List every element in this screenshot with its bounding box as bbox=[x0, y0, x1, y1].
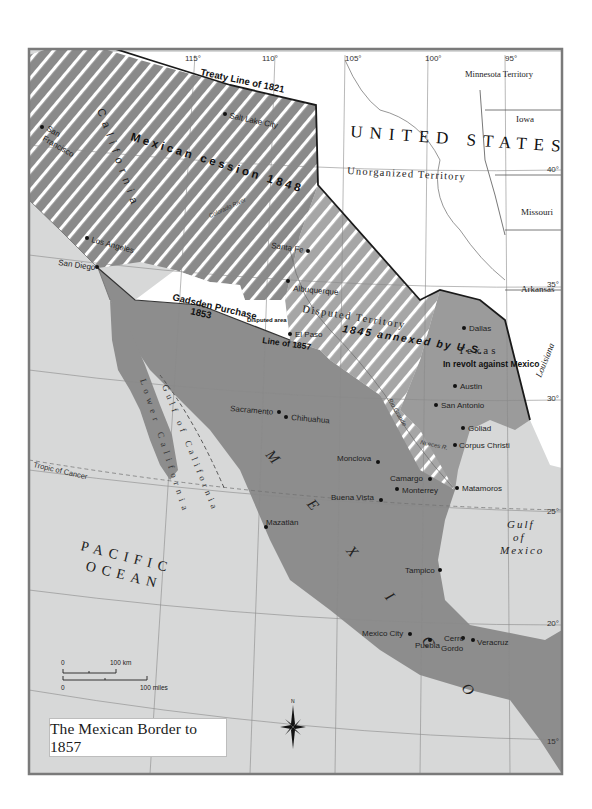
gulf-label: Gulf bbox=[507, 518, 535, 530]
of-label: of bbox=[513, 531, 526, 543]
texas-revolt-label: In revolt against Mexico bbox=[443, 359, 539, 369]
lon-95: 95° bbox=[505, 54, 517, 63]
scale-mi-label: 100 miles bbox=[140, 684, 169, 691]
lon-110: 110° bbox=[262, 54, 278, 63]
compass-north-label: N bbox=[291, 698, 295, 704]
city-mazatlan: Mazatlán bbox=[266, 518, 298, 527]
city-matamoros: Matamoros bbox=[462, 484, 502, 493]
mexico-gulf-label: Mexico bbox=[499, 544, 544, 556]
scale-mi-zero: 0 bbox=[61, 684, 65, 691]
missouri-label: Missouri bbox=[521, 207, 554, 217]
city-monclova: Monclova bbox=[337, 454, 372, 463]
lon-100: 100° bbox=[425, 54, 442, 63]
city-buena-vista: Buena Vista bbox=[331, 493, 375, 502]
city-camargo: Camargo bbox=[390, 474, 423, 483]
city-cerro-gordo-2: Gordo bbox=[441, 644, 464, 653]
lon-105: 105° bbox=[345, 54, 362, 63]
map-canvas: 115° 110° 105° 100° 95° 40° 35° 30° 25° … bbox=[0, 0, 592, 809]
city-austin: Austin bbox=[460, 382, 482, 391]
city-tampico: Tampico bbox=[405, 566, 435, 575]
city-puebla: Puebla bbox=[415, 641, 440, 650]
map: 115° 110° 105° 100° 95° 40° 35° 30° 25° … bbox=[0, 0, 592, 809]
map-title: The Mexican Border to 1857 bbox=[50, 720, 226, 756]
lat-15: 15° bbox=[547, 737, 559, 746]
city-goliad: Goliad bbox=[468, 424, 491, 433]
arkansas-label: Arkansas bbox=[521, 284, 555, 294]
city-dot-san-francisco bbox=[40, 125, 44, 129]
city-dallas: Dallas bbox=[469, 324, 491, 333]
city-cerro-gordo: Cerro bbox=[444, 634, 465, 643]
lat-30: 30° bbox=[547, 394, 559, 403]
lat-25: 25° bbox=[547, 507, 559, 516]
iowa-label: Iowa bbox=[516, 114, 534, 124]
lat-20: 20° bbox=[547, 619, 559, 628]
texas-label: Texas bbox=[458, 344, 499, 356]
lat-40: 40° bbox=[547, 165, 559, 174]
city-san-antonio: San Antonio bbox=[441, 401, 485, 410]
city-monterrey: Monterrey bbox=[402, 486, 438, 495]
city-veracruz: Veracruz bbox=[477, 638, 509, 647]
minnesota-label: Minnesota Territory bbox=[465, 69, 534, 79]
scale-km-label: 100 km bbox=[110, 659, 131, 666]
disputed-area-label: Disputed area bbox=[247, 317, 287, 323]
lon-115: 115° bbox=[185, 54, 201, 63]
scale-km-zero: 0 bbox=[61, 659, 65, 666]
city-corpus-christi: Corpus Christi bbox=[459, 441, 510, 450]
city-mexico-city: Mexico City bbox=[362, 629, 403, 638]
map-title-box: The Mexican Border to 1857 bbox=[49, 718, 227, 757]
city-el-paso: El Paso bbox=[295, 330, 323, 339]
